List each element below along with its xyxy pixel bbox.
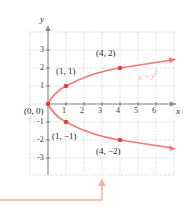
point-marker-1-neg1 — [64, 120, 69, 125]
x-tick-4: 4 — [116, 106, 120, 115]
y-tick-neg1: -1 — [37, 117, 44, 126]
point-marker-4-2 — [118, 66, 123, 71]
callout-leader — [0, 186, 102, 200]
y-axis-label: y — [40, 14, 44, 24]
point-marker-1-1 — [64, 84, 69, 89]
point-label-1-neg1: (1, −1) — [52, 131, 77, 141]
point-label-4-2: (4, 2) — [96, 48, 116, 58]
y-tick-1: 1 — [40, 81, 44, 90]
y-tick-neg3: -3 — [37, 153, 44, 162]
x-tick-6: 6 — [152, 106, 156, 115]
y-tick-neg2: -2 — [37, 135, 44, 144]
point-label-4-neg2: (4, −2) — [96, 146, 121, 156]
point-marker-4-neg2 — [118, 138, 123, 143]
x-tick-1: 1 — [62, 106, 66, 115]
callout-arrow-icon — [99, 178, 106, 186]
x-tick-2: 2 — [80, 106, 84, 115]
x-tick-3: 3 — [98, 106, 102, 115]
y-tick-2: 2 — [40, 63, 44, 72]
point-label-1-1: (1, 1) — [56, 66, 76, 76]
x-axis-label: x — [176, 106, 180, 116]
point-label-origin: (0, 0) — [24, 106, 44, 116]
equation-label-exponent: 2 — [154, 69, 158, 75]
curve-arrow-lower — [169, 145, 176, 151]
point-marker-origin — [46, 102, 51, 107]
x-tick-5: 5 — [134, 106, 138, 115]
y-axis-arrow — [45, 25, 50, 31]
curve-arrow-upper — [169, 58, 177, 64]
y-tick-3: 3 — [40, 45, 44, 54]
